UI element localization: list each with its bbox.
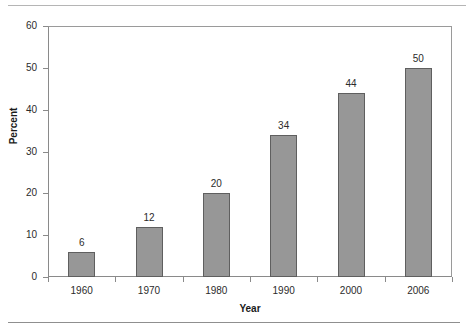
y-axis-tick-label: 10 [26, 229, 37, 241]
bar [405, 68, 432, 277]
x-axis-tick-label: 1960 [48, 285, 115, 296]
bar [68, 252, 95, 277]
y-axis-tick-mark [43, 110, 48, 111]
x-axis-tick-label: 1970 [115, 285, 182, 296]
y-axis-tick-mark [43, 68, 48, 69]
bar [270, 135, 297, 277]
y-axis-tick-mark [43, 152, 48, 153]
y-axis-tick-label: 40 [26, 104, 37, 116]
x-axis-tick-label: 1980 [183, 285, 250, 296]
x-axis-tick-label: 2000 [317, 285, 384, 296]
x-axis-tick-mark [183, 277, 184, 282]
y-axis-tick-mark [43, 193, 48, 194]
x-axis-title: Year [48, 303, 452, 314]
bar-value-label: 34 [250, 120, 317, 131]
y-axis-tick-label: 30 [26, 146, 37, 158]
y-axis-tick-mark [43, 26, 48, 27]
bar [203, 193, 230, 277]
y-axis-tick: 20 [0, 187, 48, 199]
x-axis-tick-mark [385, 277, 386, 282]
x-axis-tick-label: 2006 [385, 285, 452, 296]
bar-value-label: 44 [317, 78, 384, 89]
y-axis-tick-label: 60 [26, 20, 37, 32]
chart-page: Percent 0102030405060 196019701980199020… [0, 0, 473, 335]
y-axis-tick: 0 [0, 271, 48, 283]
y-axis-tick: 40 [0, 104, 48, 116]
x-axis-tick-mark [115, 277, 116, 282]
top-divider-rule [8, 5, 466, 6]
x-axis-tick-label: 1990 [250, 285, 317, 296]
bar-value-label: 20 [183, 178, 250, 189]
y-axis-tick: 60 [0, 20, 48, 32]
bar-value-label: 12 [115, 212, 182, 223]
y-axis-tick-mark [43, 235, 48, 236]
y-axis-tick-label: 0 [31, 271, 37, 283]
bar-value-label: 50 [385, 53, 452, 64]
y-axis-tick: 30 [0, 146, 48, 158]
y-axis-tick: 50 [0, 62, 48, 74]
x-axis-tick-mark [250, 277, 251, 282]
bottom-divider-rule [8, 322, 460, 323]
y-axis-tick: 10 [0, 229, 48, 241]
bar [136, 227, 163, 277]
bar [338, 93, 365, 277]
x-axis-tick-mark [317, 277, 318, 282]
y-axis-tick-label: 20 [26, 187, 37, 199]
x-axis-tick-mark [452, 277, 453, 282]
y-axis-tick-label: 50 [26, 62, 37, 74]
bar-value-label: 6 [48, 237, 115, 248]
x-axis-origin-tick-mark [48, 277, 49, 282]
